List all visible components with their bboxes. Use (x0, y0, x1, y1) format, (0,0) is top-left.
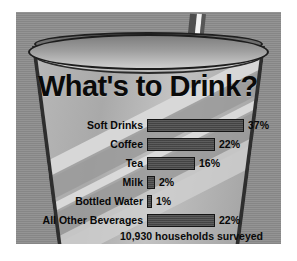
bar-value: 2% (159, 177, 174, 188)
bar-value: 22% (219, 215, 240, 226)
bar-row: All Other Beverages 22% (16, 211, 281, 229)
bar-label: Soft Drinks (16, 120, 147, 131)
bar-track: 37% (147, 119, 269, 132)
bar-label: All Other Beverages (16, 215, 147, 226)
bar-label: Tea (16, 158, 147, 169)
bar-track: 16% (147, 157, 220, 170)
bar-track: 22% (147, 138, 240, 151)
bar-row: Soft Drinks 37% (16, 116, 281, 134)
bar-row: Milk 2% (16, 173, 281, 191)
bar-fill (147, 119, 244, 132)
bar-row: Coffee 22% (16, 135, 281, 153)
bar-fill (147, 195, 152, 208)
bar-value: 37% (248, 120, 269, 131)
bar-value: 16% (199, 158, 220, 169)
bar-fill (147, 157, 195, 170)
bar-track: 22% (147, 214, 240, 227)
bar-fill (147, 138, 215, 151)
bar-value: 22% (219, 139, 240, 150)
infographic-panel: What's to Drink? Soft Drinks 37% Coffee … (16, 12, 281, 244)
bar-label: Bottled Water (16, 196, 147, 207)
bar-row: Tea 16% (16, 154, 281, 172)
bar-list: Soft Drinks 37% Coffee 22% Tea 16% (16, 116, 281, 230)
cup-rim-outer (28, 34, 269, 70)
bar-chart: What's to Drink? Soft Drinks 37% Coffee … (16, 70, 281, 244)
bar-row: Bottled Water 1% (16, 192, 281, 210)
bar-fill (147, 214, 215, 227)
chart-title: What's to Drink? (38, 70, 258, 103)
bar-fill (147, 176, 155, 189)
survey-footnote: 10,930 households surveyed (16, 230, 263, 242)
bar-track: 2% (147, 176, 174, 189)
bar-label: Coffee (16, 139, 147, 150)
bar-label: Milk (16, 177, 147, 188)
bar-track: 1% (147, 195, 171, 208)
bar-value: 1% (156, 196, 171, 207)
